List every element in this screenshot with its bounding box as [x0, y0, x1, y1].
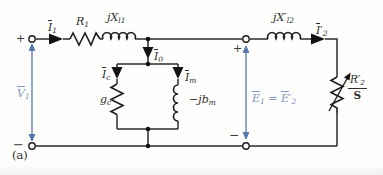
circuit-diagram-induction-motor-equivalent: I1 R1 jXl1 jX′l2 I′2 I0 Ic Im gc −jbm V1… [0, 0, 383, 175]
resistor-r1 [70, 33, 100, 45]
current-arrow-i1-icon [49, 34, 63, 45]
figure-caption: (a) [12, 150, 28, 162]
inductor-jxl1 [103, 32, 136, 39]
label-voltage-v1: V1 [17, 86, 30, 101]
label-current-im: Im [185, 70, 196, 85]
polarity-minus-mid: − [229, 129, 239, 141]
current-arrow-ic-icon [112, 67, 123, 79]
polarity-plus-mid: + [233, 43, 242, 54]
inductor-jxl2 [268, 32, 301, 39]
label-current-ic: Ic [102, 67, 111, 82]
label-r2-numerator: R′2 [348, 74, 367, 89]
current-arrow-im-icon [173, 67, 184, 79]
label-inductor-jxl2: jX′l2 [273, 12, 294, 25]
terminal-mid-bottom [243, 143, 249, 149]
label-resistor-r1: R1 [76, 16, 89, 29]
terminal-left-bottom [29, 143, 35, 149]
wire-shunt-frame [117, 64, 178, 146]
label-current-i0: I0 [154, 49, 163, 64]
label-slip-denominator: S [348, 89, 367, 101]
label-emf-e1-e2: E1 = E′2 [252, 91, 296, 106]
wire-top-rail-right [249, 39, 337, 77]
label-susceptance-jbm: −jbm [189, 94, 216, 107]
label-inductor-jxl1: jXl1 [107, 12, 125, 25]
label-current-i1: I1 [48, 20, 57, 35]
resistor-gc [111, 84, 123, 115]
label-conductance-gc: gc [100, 94, 111, 107]
variable-arrow-shaft [329, 77, 348, 111]
polarity-plus-left: + [16, 33, 25, 44]
voltage-arrow-e1 [243, 46, 249, 139]
voltage-arrow-v1 [29, 44, 35, 141]
label-current-i2: I′2 [316, 23, 328, 38]
terminal-mid-top [243, 36, 249, 42]
current-arrow-i0-icon [143, 47, 154, 59]
inductor-jbm [174, 85, 179, 121]
page-shadow [0, 165, 383, 175]
terminals [29, 36, 249, 149]
wire-bottom-rail [35, 113, 337, 146]
resistor-r2s [331, 77, 343, 113]
terminal-left-top [29, 36, 35, 42]
label-r2-over-s: R′2 S [348, 74, 367, 101]
